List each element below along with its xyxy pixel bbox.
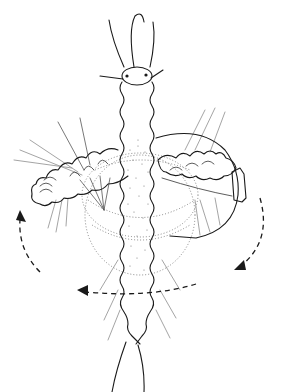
- pygidium-tail-icon: [112, 342, 144, 392]
- prostomium-head-icon: [100, 14, 163, 85]
- bottom-rotation-arrow-icon: [77, 284, 196, 296]
- left-parapodium-icon: [32, 149, 129, 206]
- chaetae-icon: [14, 108, 225, 340]
- right-parapodium-icon: [156, 134, 246, 238]
- left-rotation-arrow-icon: [16, 210, 40, 272]
- segmented-trunk-icon: [120, 82, 154, 344]
- polychaete-illustration: [0, 0, 281, 392]
- right-rotation-arrow-icon: [234, 198, 263, 270]
- rotation-zone-icon: [82, 153, 198, 275]
